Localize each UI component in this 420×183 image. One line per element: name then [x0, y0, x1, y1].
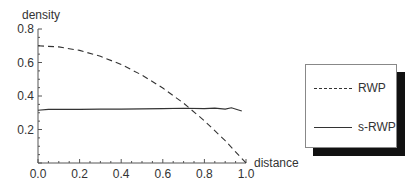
x-tick-label: 1.0: [238, 167, 255, 181]
x-tick-label: 0.2: [71, 167, 88, 181]
x-tick-label: 0.4: [113, 167, 130, 181]
y-tick-label: 0.4: [17, 89, 34, 103]
legend-label: RWP: [358, 81, 386, 95]
y-tick-label: 0.6: [17, 56, 34, 70]
x-tick-label: 0.0: [30, 167, 47, 181]
y-axis-label: density: [22, 8, 60, 22]
y-tick-label: 0.2: [17, 123, 34, 137]
legend-label: s-RWP: [358, 120, 396, 134]
legend-item-s-rwp: s-RWP: [314, 120, 396, 134]
x-tick-label: 0.6: [154, 167, 171, 181]
series-rwp-line: [38, 46, 246, 163]
solid-line-swatch-icon: [314, 127, 352, 128]
x-tick-label: 0.8: [196, 167, 213, 181]
series-s-rwp-line: [38, 108, 242, 111]
dashed-line-swatch-icon: [314, 88, 352, 89]
x-axis-label: distance: [254, 156, 299, 170]
y-tick-label: 0.8: [17, 22, 34, 36]
legend: RWP s-RWP: [305, 64, 397, 148]
legend-item-rwp: RWP: [314, 81, 386, 95]
